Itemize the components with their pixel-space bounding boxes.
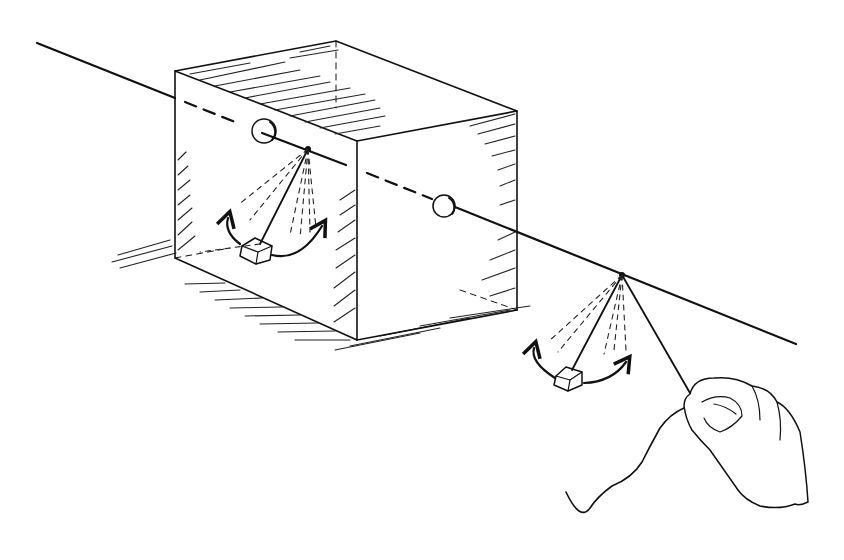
hole-right-face [433,195,455,217]
pendulum-inside-box [200,146,322,264]
transparent-box [175,41,517,340]
double-headed-curved-arrow [227,218,240,244]
string-line [37,43,796,344]
hand-holding-string [566,378,808,513]
pendulum-outside-box [533,272,690,393]
diagram-svg [0,0,844,560]
pendulum-diagram [0,0,844,560]
hole-front-face [252,119,276,143]
